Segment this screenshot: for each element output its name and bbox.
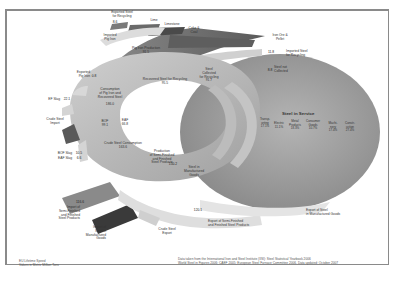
steel-in-service-title: Steel in Service	[282, 111, 314, 116]
label-coke-coal: Coke & Coal	[186, 27, 202, 35]
stock-cell-construction: Constr- uction27.4%	[342, 122, 358, 133]
value-export-semifinished: 120.1	[192, 209, 204, 213]
label-crude-steel-import: Crude Steel Import	[42, 118, 68, 126]
label-import-manufactured-goods: Import of Steel in Manufactured Goods	[76, 226, 106, 241]
label-consumption-pig-iron: Consumption of Pig Iron and Recovered St…	[92, 88, 128, 107]
value-eaf-slag: 6.6	[74, 157, 84, 161]
value-exported-pig-iron: 0.8	[90, 75, 98, 79]
label-steel-not-collected: Steel not Collected	[274, 66, 298, 74]
stock-cell-machinery: Machi- nery17.4%	[326, 122, 340, 133]
label-exported-pig-iron: Exported Pig Iron	[68, 71, 90, 79]
label-export-manufactured-goods: Export of Steel in Manufactured Goods	[306, 209, 356, 217]
ef-slag-flow	[62, 104, 74, 116]
label-iron-ore-pellet: Iron Ore & Pellet	[268, 34, 292, 42]
label-limestone: Limestone	[160, 23, 184, 27]
stock-cell-electric: Electric11.1%	[272, 122, 286, 129]
label-bof: BOF99.1	[98, 120, 112, 128]
footer-right: Data taken from the International Iron a…	[178, 257, 338, 266]
value-exported-steel-recycling: 8.6	[110, 21, 120, 25]
label-exported-steel-recycling: Exported Steel for Recycling	[102, 11, 142, 19]
stock-cell-consumer-goods: Consumer Goods10.7%	[304, 120, 322, 131]
label-export-semifinished: Export of Semi-Finished and Finished Ste…	[208, 220, 268, 228]
label-lime: Lime	[148, 19, 160, 23]
stock-cell-metal-products: Metal Products18.3%	[287, 120, 303, 131]
label-recovered-steel-recycling: Recovered Steel for Recycling95.5	[140, 78, 190, 86]
label-steel-collected-recycling: Steel Collected for Recycling91.7	[196, 68, 222, 83]
label-steel-manufactured-goods: Steel in Manufactured Goods	[180, 166, 208, 177]
label-imported-steel-recycling: Imported Steel for Recycling	[286, 50, 322, 58]
footer-left: EU Lifetime SpeedValues in Metric Millio…	[19, 259, 59, 268]
label-eaf: EAF66.8	[118, 119, 132, 127]
label-crude-steel-consumption: Crude Steel Consumption163.6	[98, 142, 148, 150]
steel-flow-sankey	[0, 0, 396, 281]
value-imported-steel-recycling: 11.8	[266, 51, 276, 55]
value-steel-not-collected: 8.8	[266, 69, 274, 73]
value-import-semifinished: 116.6	[74, 201, 86, 205]
label-imported-pig-iron: Imported Pig Iron	[100, 34, 120, 42]
label-pig-iron-production: Pig Iron Production91.5	[125, 47, 167, 55]
label-ef-slag: EF Slag	[46, 98, 60, 102]
label-eaf-slag: EAF Slag	[54, 157, 72, 161]
value-ef-slag: 22.1	[62, 98, 72, 102]
stock-cell-transporting: Transp- orting17.1%	[258, 118, 272, 129]
label-crude-steel-export: Crude Steel Export	[154, 228, 180, 236]
value-production-semifinished: 150.2	[168, 163, 178, 167]
label-import-semifinished: Import of Semi-Finished and Finished Ste…	[30, 206, 80, 221]
